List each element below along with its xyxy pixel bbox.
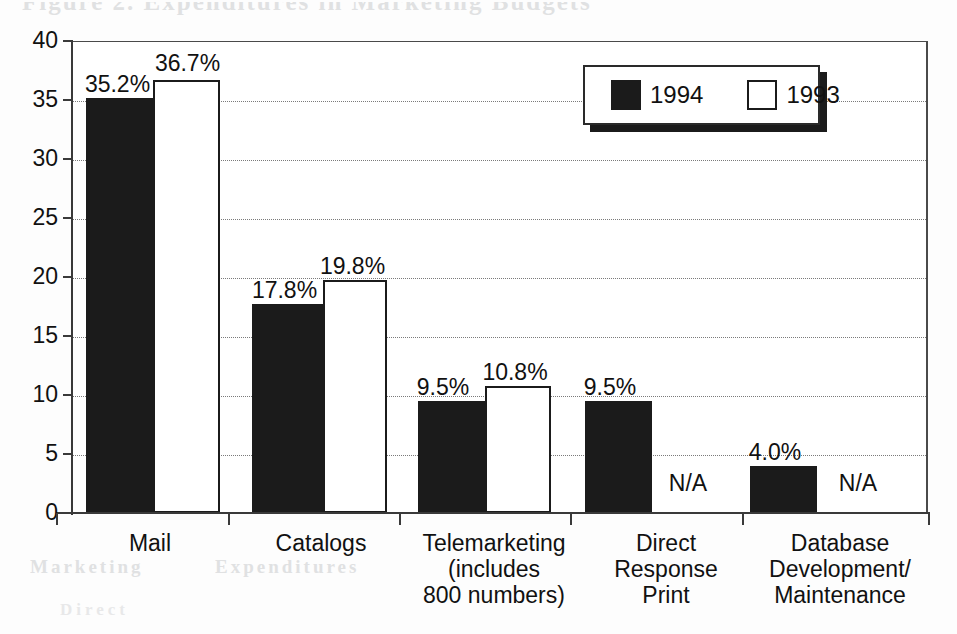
bar-direct-response-print-1994 — [585, 401, 652, 513]
y-tick-20 — [63, 276, 72, 278]
y-tick-5 — [63, 453, 72, 455]
category-label-telemarketing-line2: (includes — [406, 556, 582, 582]
y-label-25: 25 — [6, 206, 58, 229]
y-label-20: 20 — [6, 265, 58, 288]
legend-label-1993: 1993 — [786, 83, 839, 107]
y-label-0: 0 — [6, 501, 58, 524]
category-label-telemarketing-line3: 800 numbers) — [406, 582, 582, 608]
y-tick-40 — [63, 40, 72, 42]
category-label-direct-line1: Direct — [588, 530, 744, 556]
legend-swatch-1994-icon — [611, 80, 641, 110]
data-label-database-development-1993: N/A — [823, 472, 893, 495]
bar-telemarketing-1994 — [418, 401, 485, 513]
data-label-catalogs-1994: 17.8% — [242, 279, 327, 302]
bar-telemarketing-1993 — [485, 386, 551, 513]
data-label-direct-response-print-1993: N/A — [653, 472, 723, 495]
legend-label-1994: 1994 — [650, 83, 703, 107]
legend: 1994 1993 — [583, 65, 820, 125]
category-label-direct-line3: Print — [588, 582, 744, 608]
bar-mail-1993 — [153, 80, 220, 513]
category-label-telemarketing-line1: Telemarketing — [406, 530, 582, 556]
data-label-telemarketing-1993: 10.8% — [469, 361, 561, 384]
ghost-title-artifact: Figure 2. Expenditures in Marketing Budg… — [22, 0, 592, 16]
y-tick-30 — [63, 158, 72, 160]
category-label-database-line1: Database — [745, 530, 935, 556]
x-tick-1 — [228, 513, 230, 525]
x-tick-start — [56, 513, 58, 525]
legend-entry-1993[interactable]: 1993 — [747, 80, 839, 110]
y-label-15: 15 — [6, 324, 58, 347]
data-label-database-development-1994: 4.0% — [736, 441, 814, 464]
legend-entry-1994[interactable]: 1994 — [611, 80, 703, 110]
bar-chart: Figure 2. Expenditures in Marketing Budg… — [0, 0, 957, 634]
y-tick-0 — [63, 512, 72, 514]
x-tick-end — [928, 513, 930, 525]
y-label-40: 40 — [6, 29, 58, 52]
y-tick-10 — [63, 394, 72, 396]
ghost-bottom-artifact-2: Expenditures — [215, 556, 359, 578]
bar-catalogs-1994 — [252, 304, 323, 513]
category-label-catalogs: Catalogs — [243, 530, 399, 556]
x-axis-line — [56, 512, 930, 514]
y-tick-35 — [63, 99, 72, 101]
y-axis-labels: 40 35 30 25 20 15 10 5 0 — [0, 0, 58, 634]
category-label-catalogs-line1: Catalogs — [243, 530, 399, 556]
x-tick-3 — [570, 513, 572, 525]
category-label-database-line2: Development/ — [745, 556, 935, 582]
data-label-direct-response-print-1994: 9.5% — [571, 376, 649, 399]
y-label-30: 30 — [6, 147, 58, 170]
ghost-bottom-artifact-3: Direct — [60, 600, 129, 620]
category-label-direct-response-print: Direct Response Print — [588, 530, 744, 608]
category-label-database-development: Database Development/ Maintenance — [745, 530, 935, 608]
bar-mail-1994 — [86, 98, 153, 513]
bar-database-development-1994 — [750, 466, 817, 513]
category-label-telemarketing: Telemarketing (includes 800 numbers) — [406, 530, 582, 608]
x-tick-4 — [742, 513, 744, 525]
category-label-database-line3: Maintenance — [745, 582, 935, 608]
data-label-mail-1993: 36.7% — [145, 52, 230, 75]
y-label-35: 35 — [6, 88, 58, 111]
y-label-10: 10 — [6, 383, 58, 406]
data-label-catalogs-1993: 19.8% — [310, 255, 395, 278]
category-label-mail-line1: Mail — [72, 530, 228, 556]
category-label-direct-line2: Response — [588, 556, 744, 582]
bar-catalogs-1993 — [323, 280, 387, 513]
x-tick-2 — [399, 513, 401, 525]
y-tick-25 — [63, 217, 72, 219]
category-label-mail: Mail — [72, 530, 228, 556]
y-tick-15 — [63, 335, 72, 337]
legend-swatch-1993-icon — [747, 80, 777, 110]
data-label-mail-1994: 35.2% — [75, 73, 160, 96]
y-label-5: 5 — [6, 442, 58, 465]
